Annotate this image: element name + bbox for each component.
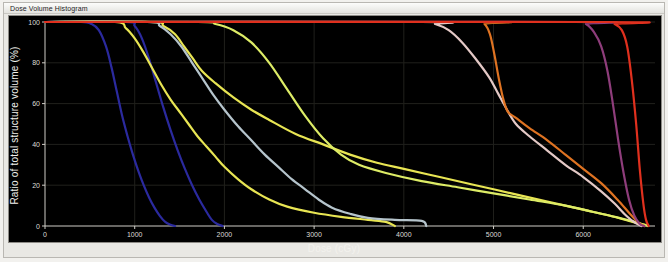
svg-text:3000: 3000 (306, 231, 322, 238)
svg-text:2000: 2000 (217, 231, 233, 238)
svg-text:0: 0 (43, 231, 47, 238)
dvh-chart-svg: 0100020003000400050006000020406080100 (9, 16, 661, 242)
window-title: Dose Volume Histogram (10, 3, 88, 14)
svg-text:4000: 4000 (396, 231, 412, 238)
svg-text:60: 60 (32, 100, 40, 107)
svg-text:20: 20 (32, 182, 40, 189)
window-title-bar[interactable]: Dose Volume Histogram (4, 3, 664, 14)
svg-text:1000: 1000 (127, 231, 143, 238)
plot-area[interactable]: 0100020003000400050006000020406080100 (8, 15, 662, 243)
y-axis-label: Ratio of total structure volume (%) (9, 26, 20, 226)
dvh-window-root: Dose Volume Histogram 010002000300040005… (0, 0, 668, 262)
svg-text:6000: 6000 (575, 231, 591, 238)
svg-text:0: 0 (36, 223, 40, 230)
dose-volume-histogram-window: Dose Volume Histogram 010002000300040005… (3, 2, 665, 258)
x-axis-label: Dose (cGy) (0, 243, 668, 254)
svg-text:5000: 5000 (486, 231, 502, 238)
svg-text:80: 80 (32, 59, 40, 66)
svg-text:100: 100 (28, 19, 40, 26)
svg-text:40: 40 (32, 141, 40, 148)
